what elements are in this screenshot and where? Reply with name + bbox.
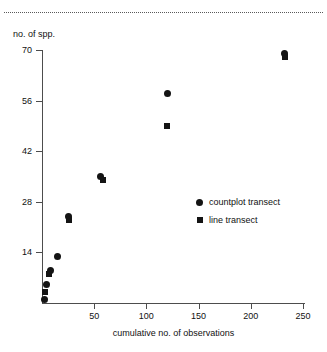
y-axis-line [42, 50, 43, 303]
data-point-square [164, 123, 170, 129]
y-tick-label: 56 [0, 97, 32, 106]
x-tick-mark [303, 303, 304, 309]
y-axis-title: no. of spp. [13, 29, 55, 39]
y-tick-mark [36, 101, 42, 102]
y-tick-label: 14 [0, 248, 32, 257]
square-marker-icon [197, 217, 203, 223]
y-tick-mark [36, 50, 42, 51]
data-point-square [42, 289, 48, 295]
y-tick-label: 42 [0, 147, 32, 156]
y-tick-mark [36, 252, 42, 253]
data-point-square [66, 217, 72, 223]
y-tick-label: 28 [0, 198, 32, 207]
x-tick-label: 250 [286, 312, 320, 321]
y-tick-label: 70 [0, 46, 32, 55]
x-tick-mark [146, 303, 147, 309]
x-tick-mark [251, 303, 252, 309]
y-tick-mark [36, 202, 42, 203]
legend-label: line transect [209, 214, 258, 227]
x-tick-label: 200 [234, 312, 268, 321]
y-tick-mark [36, 151, 42, 152]
data-point-square [282, 54, 288, 60]
data-point-circle [41, 296, 48, 303]
x-axis-line [42, 303, 305, 304]
data-point-square [100, 177, 106, 183]
x-tick-mark [94, 303, 95, 309]
data-point-circle [43, 281, 50, 288]
data-point-square [46, 271, 52, 277]
data-point-circle [164, 90, 171, 97]
legend-label: countplot transect [209, 196, 280, 209]
x-tick-label: 100 [129, 312, 163, 321]
scatter-plot-area: no. of spp. 1428425670 50100150200250 cu… [0, 0, 327, 352]
x-tick-label: 150 [182, 312, 216, 321]
x-axis-title: cumulative no. of observations [42, 328, 305, 338]
x-tick-label: 50 [77, 312, 111, 321]
data-point-circle [54, 253, 61, 260]
species-accumulation-figure: no. of spp. 1428425670 50100150200250 cu… [0, 0, 327, 352]
x-tick-mark [199, 303, 200, 309]
circle-marker-icon [196, 199, 203, 206]
